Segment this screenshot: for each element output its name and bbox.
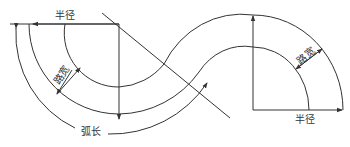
right-inner-arc — [199, 46, 309, 110]
tangent-line — [102, 13, 230, 118]
left-outer-arc — [29, 24, 199, 114]
arc-length-label: 弧长 — [81, 127, 101, 137]
radius-label-top: 半径 — [55, 11, 75, 21]
left-inner-arc — [64, 24, 164, 87]
radius-label-bottom: 半径 — [295, 115, 315, 125]
arc-length-arc — [16, 28, 75, 128]
road-curve-diagram: 半径 半径 路宽 路宽 弧长 — [0, 0, 350, 147]
